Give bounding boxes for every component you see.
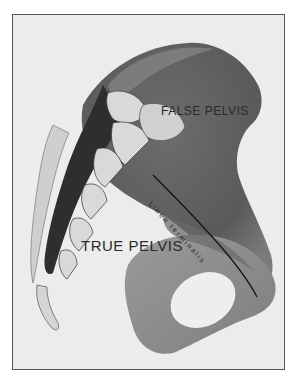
true-pelvis-label: TRUE PELVIS [81,237,183,254]
illustration-frame: FALSE PELVIS TRUE PELVIS Linea terminali… [12,14,285,370]
coccyx [37,285,59,330]
false-pelvis-label: FALSE PELVIS [161,104,249,118]
pelvis-illustration [13,15,284,369]
